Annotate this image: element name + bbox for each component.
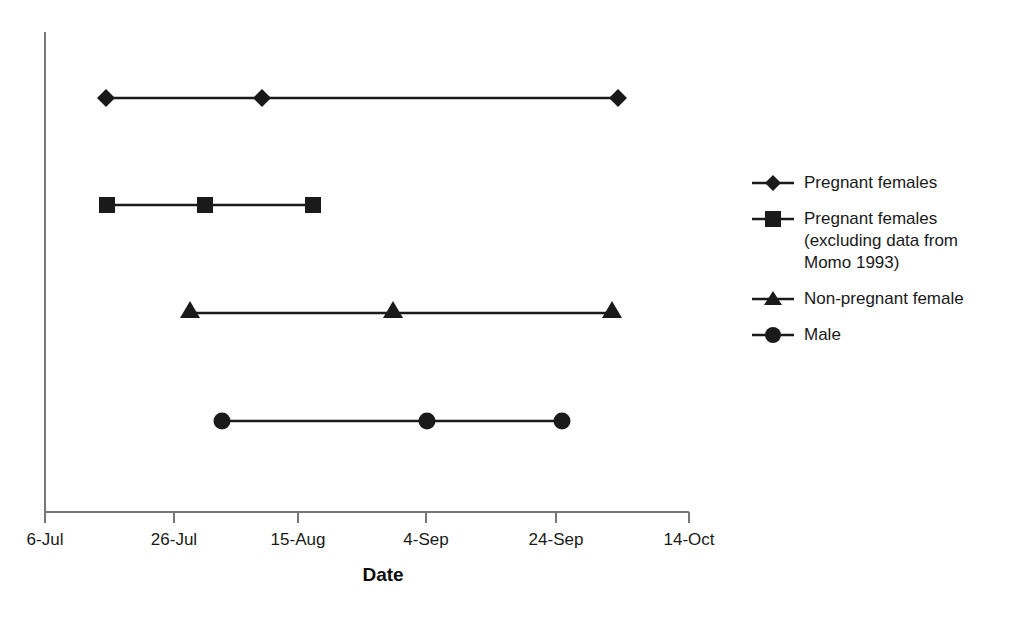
legend-label-pregnant-females: Pregnant females: [804, 172, 937, 194]
series-pregnant-females: [97, 89, 627, 107]
data-point-triangle: [602, 301, 622, 318]
x-axis-title: Date: [362, 564, 403, 586]
legend-item-pregnant-females: Pregnant females: [750, 172, 1005, 194]
data-point-circle: [419, 413, 436, 430]
legend-label-male: Male: [804, 324, 841, 346]
data-point-square: [99, 197, 115, 213]
legend-item-male: Male: [750, 324, 1005, 346]
x-tick-label-4: 24-Sep: [529, 530, 584, 550]
legend-marker-square-icon: [750, 208, 796, 230]
legend-item-non-pregnant-female: Non-pregnant female: [750, 288, 1005, 310]
data-point-circle: [554, 413, 571, 430]
legend-label-non-pregnant-female: Non-pregnant female: [804, 288, 964, 310]
x-tick-label-0: 6-Jul: [27, 530, 64, 550]
data-point-square: [305, 197, 321, 213]
x-tick-label-3: 4-Sep: [403, 530, 448, 550]
data-point-square: [197, 197, 213, 213]
series-non-pregnant-female: [180, 301, 622, 318]
data-point-diamond: [97, 89, 115, 107]
legend-label-pregnant-females-excluding-momo: Pregnant females (excluding data from Mo…: [804, 208, 1005, 274]
x-tick-label-5: 14-Oct: [663, 530, 714, 550]
legend-item-pregnant-females-excluding-momo: Pregnant females (excluding data from Mo…: [750, 208, 1005, 274]
data-point-circle: [214, 413, 231, 430]
data-point-diamond: [609, 89, 627, 107]
chart-figure: 6-Jul 26-Jul 15-Aug 4-Sep 24-Sep 14-Oct …: [0, 0, 1009, 625]
x-tick-label-2: 15-Aug: [271, 530, 326, 550]
series-pregnant-females-excluding-momo: [99, 197, 321, 213]
chart-legend: Pregnant females Pregnant females (exclu…: [750, 172, 1005, 360]
x-axis-ticks: [45, 512, 689, 523]
data-point-diamond: [253, 89, 271, 107]
legend-marker-circle-icon: [750, 324, 796, 346]
data-point-triangle: [180, 301, 200, 318]
series-male: [214, 413, 571, 430]
x-tick-label-1: 26-Jul: [151, 530, 197, 550]
legend-marker-diamond-icon: [750, 172, 796, 194]
legend-marker-triangle-icon: [750, 288, 796, 310]
data-point-triangle: [383, 301, 403, 318]
